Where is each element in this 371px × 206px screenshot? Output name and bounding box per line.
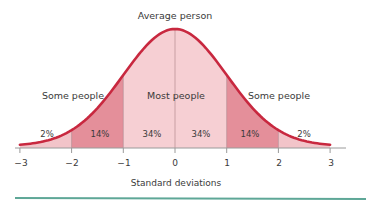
tick-label-neg1: −1 [117, 158, 130, 168]
right-region-label: Some people [248, 90, 310, 101]
x-axis-title: Standard deviations [131, 178, 222, 188]
top-annotation: Average person [138, 10, 213, 21]
tick-label-2: 2 [276, 158, 282, 168]
segment-label-1: 14% [91, 129, 110, 139]
tick-label-neg2: −2 [65, 158, 78, 168]
center-region-label: Most people [147, 90, 205, 101]
footer-rule [15, 198, 366, 199]
x-axis-ticks [20, 148, 330, 153]
tick-label-neg3: −3 [14, 158, 27, 168]
segment-label-3: 34% [192, 129, 211, 139]
segment-label-4: 14% [241, 129, 260, 139]
left-region-label: Some people [42, 90, 104, 101]
normal-distribution-chart: Average person Some people Most people S… [0, 0, 371, 206]
segment-label-5: 2% [297, 129, 311, 139]
tick-label-1: 1 [224, 158, 230, 168]
segment-label-0: 2% [40, 129, 54, 139]
tick-label-3: 3 [328, 158, 334, 168]
segment-label-2: 34% [143, 129, 162, 139]
tick-label-0: 0 [172, 158, 178, 168]
